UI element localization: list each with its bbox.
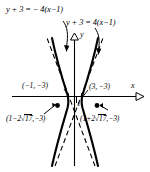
focus-right-dot xyxy=(95,103,100,108)
focus-left-dot xyxy=(55,103,60,108)
vertex-right-label: (3, −3) xyxy=(89,83,110,91)
y-axis-arrowhead-icon xyxy=(71,33,79,40)
focus-left-prefix: (1−2 xyxy=(6,114,21,123)
leader-arrowhead-asymptote-left xyxy=(64,45,69,52)
hyperbola-figure: y + 3 = − 4(x−1) y + 3 = 4(x−1) y x 1 (−… xyxy=(0,0,150,172)
leader-arrowhead-focus-right xyxy=(99,103,103,108)
focus-right-prefix: (1+2 xyxy=(80,114,95,123)
asymptote-negative-slope-line xyxy=(47,38,95,166)
vertex-left-label: (−1, −3) xyxy=(22,82,48,90)
asymptote-left-equation-label: y + 3 = − 4(x−1) xyxy=(6,6,63,14)
focus-right-label: (1+2√17,−3) xyxy=(80,114,119,123)
x-axis-arrowhead-icon xyxy=(136,93,144,101)
y-axis-label: y xyxy=(80,31,83,39)
focus-right-suffix: ,−3) xyxy=(106,114,119,123)
focus-left-suffix: ,−3) xyxy=(32,114,45,123)
leader-line-focus-left xyxy=(44,106,54,114)
x-axis-label: x xyxy=(131,82,134,90)
asymptote-right-equation-label: y + 3 = 4(x−1) xyxy=(66,19,116,27)
focus-left-label: (1−2√17,−3) xyxy=(6,114,45,123)
x-axis-unit-tick-label: 1 xyxy=(77,101,80,108)
